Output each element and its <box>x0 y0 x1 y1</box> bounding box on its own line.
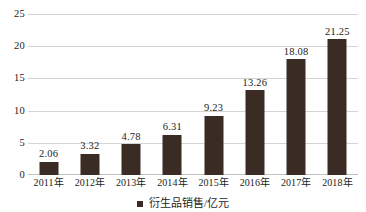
bar-slot: 6.31 <box>152 14 193 175</box>
x-tick-label: 2011年 <box>28 177 69 189</box>
x-axis: 2011年 2012年 2013年 2014年 2015年 2016年 2017… <box>28 177 358 193</box>
bar-slot: 2.06 <box>28 14 69 175</box>
bar[interactable] <box>163 135 182 175</box>
x-tick-label: 2018年 <box>317 177 358 189</box>
y-tick-label-5: 5 <box>1 138 25 149</box>
x-tick-label: 2016年 <box>234 177 275 189</box>
x-tick-label: 2015年 <box>193 177 234 189</box>
bar-value-label: 6.31 <box>163 122 182 133</box>
y-tick-label-15: 15 <box>1 73 25 84</box>
bar-value-label: 3.32 <box>80 141 99 152</box>
bar-slot: 4.78 <box>111 14 152 175</box>
x-tick-label: 2013年 <box>111 177 152 189</box>
bars-layer: 2.06 3.32 4.78 6.31 9.23 13.26 18.08 21 <box>28 14 358 175</box>
y-axis: 25 20 15 10 5 0 <box>0 0 25 212</box>
bar[interactable] <box>80 154 99 175</box>
bar-value-label: 9.23 <box>204 103 223 114</box>
x-tick-label: 2012年 <box>69 177 110 189</box>
chart-legend: 衍生品销售/亿元 <box>0 195 366 212</box>
bar-slot: 9.23 <box>193 14 234 175</box>
bar-value-label: 13.26 <box>243 78 268 89</box>
bar[interactable] <box>287 59 306 175</box>
bar[interactable] <box>39 162 58 175</box>
legend-swatch-icon <box>137 201 143 207</box>
x-tick-label: 2017年 <box>276 177 317 189</box>
bar-chart: 25 20 15 10 5 0 2.06 3.32 4.78 6.31 9.23 <box>0 0 366 212</box>
y-tick-label-20: 20 <box>1 41 25 52</box>
y-tick-label-10: 10 <box>1 106 25 117</box>
bar-value-label: 21.25 <box>325 27 350 38</box>
bar-value-label: 2.06 <box>39 149 58 160</box>
bar-slot: 13.26 <box>234 14 275 175</box>
bar-slot: 3.32 <box>69 14 110 175</box>
y-tick-label-25: 25 <box>1 9 25 20</box>
bar[interactable] <box>245 90 264 175</box>
y-tick-label-0: 0 <box>1 170 25 181</box>
bar-value-label: 18.08 <box>284 47 309 58</box>
bar-slot: 18.08 <box>276 14 317 175</box>
bar[interactable] <box>328 39 347 175</box>
bar-slot: 21.25 <box>317 14 358 175</box>
bar[interactable] <box>204 116 223 175</box>
legend-label: 衍生品销售/亿元 <box>149 198 229 209</box>
bar[interactable] <box>122 144 141 175</box>
bar-value-label: 4.78 <box>122 132 141 143</box>
x-tick-label: 2014年 <box>152 177 193 189</box>
